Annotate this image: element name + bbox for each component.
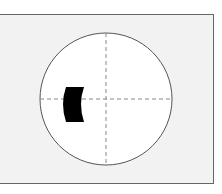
visual-field-diagram bbox=[0, 0, 222, 194]
field-defect-scotoma bbox=[63, 87, 84, 122]
